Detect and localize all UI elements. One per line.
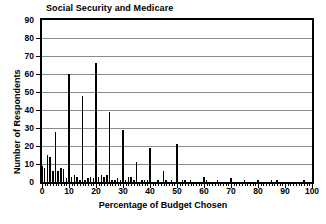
bar [111,180,113,182]
plot-area [40,18,314,184]
bar [149,148,151,182]
x-tick-minor [56,184,57,186]
x-tick-minor [142,184,143,186]
gridline [42,38,312,39]
bar [171,180,173,182]
x-tick-label: 60 [194,187,214,196]
x-tick-minor [212,184,213,186]
x-tick-minor [247,184,248,186]
bar [87,178,89,182]
bar [144,180,146,182]
bar [244,180,246,182]
bar [114,180,116,182]
x-tick-minor [61,184,62,186]
bar [184,180,186,182]
x-tick-minor [115,184,116,186]
bar [303,180,305,182]
y-tick-label: 20 [0,142,34,150]
bar [147,180,149,182]
x-tick-minor [80,184,81,186]
x-tick-minor [88,184,89,186]
x-tick-minor [250,184,251,186]
bar [141,180,143,182]
bar [217,180,219,182]
x-tick-minor [299,184,300,186]
x-tick-minor [274,184,275,186]
bar [90,177,92,182]
x-tick-label: 50 [167,187,187,196]
bar [206,180,208,182]
x-tick-minor [85,184,86,186]
bar [122,130,124,182]
chart-title: Social Security and Medicare [46,3,173,13]
x-tick-minor [155,184,156,186]
bar [71,177,73,182]
x-tick-minor [266,184,267,186]
y-tick-label: 40 [0,106,34,114]
y-tick-label: 0 [0,178,34,186]
bar [103,177,105,182]
x-tick-minor [218,184,219,186]
bar [120,180,122,182]
bar [49,157,51,182]
bar [165,180,167,182]
x-tick-label: 70 [221,187,241,196]
bar [230,178,232,182]
x-tick-minor [242,184,243,186]
bar [136,162,138,182]
x-tick-minor [293,184,294,186]
bar [42,166,43,182]
x-tick-minor [139,184,140,186]
x-tick-minor [169,184,170,186]
gridline [42,92,312,93]
bar [44,168,46,182]
chart-container: Social Security and Medicare Number of R… [0,0,326,224]
x-tick-label: 0 [32,187,52,196]
bar [128,177,130,182]
x-tick-minor [58,184,59,186]
x-tick-minor [137,184,138,186]
bar [176,144,178,182]
bar [98,177,100,182]
x-tick-minor [50,184,51,186]
bar [52,171,54,182]
x-tick-minor [239,184,240,186]
bar [106,175,108,182]
x-tick-minor [188,184,189,186]
bar [130,177,132,182]
bar [82,96,84,182]
x-tick-minor [182,184,183,186]
x-tick-label: 30 [113,187,133,196]
x-tick-minor [245,184,246,186]
x-tick-minor [131,184,132,186]
x-tick-minor [83,184,84,186]
x-tick-minor [161,184,162,186]
bar [66,178,68,182]
bar [109,112,111,182]
plot-inner [42,20,312,182]
x-tick-minor [209,184,210,186]
x-tick-minor [53,184,54,186]
bar [101,175,103,182]
bar [257,180,259,182]
bar [125,180,127,182]
bar [271,180,273,182]
x-tick-minor [47,184,48,186]
y-axis-label: Number of Respondents [12,69,22,174]
x-tick-minor [269,184,270,186]
y-tick-label: 10 [0,160,34,168]
x-tick-minor [107,184,108,186]
x-tick-minor [158,184,159,186]
x-tick-minor [193,184,194,186]
y-tick-label: 90 [0,16,34,24]
x-tick-minor [220,184,221,186]
y-tick-label: 30 [0,124,34,132]
bar [157,180,159,182]
x-tick-minor [290,184,291,186]
bar [55,132,57,182]
y-tick-label: 60 [0,70,34,78]
x-tick-minor [77,184,78,186]
x-tick-minor [166,184,167,186]
x-tick-minor [45,184,46,186]
x-tick-minor [277,184,278,186]
